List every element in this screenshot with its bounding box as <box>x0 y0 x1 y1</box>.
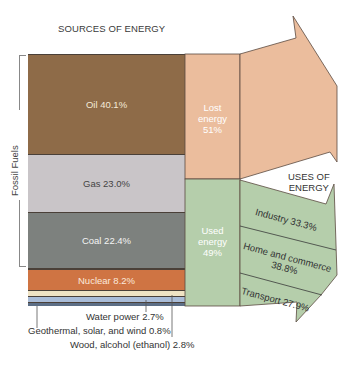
water-power-note: Water power 2.7% <box>86 311 164 322</box>
used-line2: energy <box>185 236 240 247</box>
uses-title-line1: USES OF <box>288 171 330 182</box>
used-line1: Used <box>185 225 240 236</box>
lost-line3: 51% <box>185 124 240 135</box>
used-energy-label: Used energy 49% <box>185 225 240 258</box>
lost-energy-arrow <box>240 16 337 179</box>
lost-energy-label: Lost energy 51% <box>185 102 240 135</box>
uses-title-line2: ENERGY <box>288 182 330 193</box>
wood-note: Wood, alcohol (ethanol) 2.8% <box>70 339 194 350</box>
uses-title: USES OF ENERGY <box>288 171 330 193</box>
geothermal-note: Geothermal, solar, and wind 0.8% <box>28 325 171 336</box>
lost-line2: energy <box>185 113 240 124</box>
used-line3: 49% <box>185 247 240 258</box>
lost-line1: Lost <box>185 102 240 113</box>
